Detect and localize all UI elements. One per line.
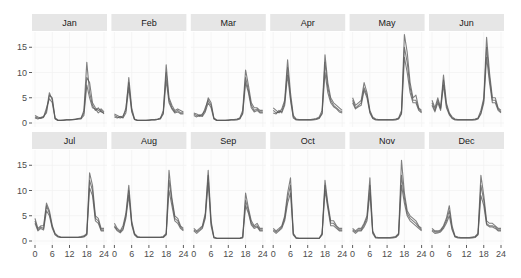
y-tick-label: 10 xyxy=(17,68,27,78)
facet-panel-sep: Sep06121824 xyxy=(191,132,268,259)
facet-strip-label: May xyxy=(379,18,397,28)
x-tick-label: 0 xyxy=(350,249,355,259)
y-tick-label: 5 xyxy=(22,93,27,103)
x-tick-label: 6 xyxy=(209,249,214,259)
y-tick-label: 15 xyxy=(17,160,27,170)
facet-strip-label: Jun xyxy=(459,18,474,28)
facet-strip-label: Sep xyxy=(220,136,236,146)
x-tick-label: 18 xyxy=(241,249,251,259)
x-tick-label: 12 xyxy=(223,249,233,259)
x-tick-label: 6 xyxy=(288,249,293,259)
x-tick-label: 18 xyxy=(399,249,409,259)
x-tick-label: 0 xyxy=(32,249,37,259)
x-tick-label: 12 xyxy=(461,249,471,259)
facet-panel-dec: Dec06121824 xyxy=(429,132,506,259)
x-tick-label: 0 xyxy=(112,249,117,259)
facet-strip-label: Jul xyxy=(64,136,76,146)
facet-strip-label: Feb xyxy=(141,18,157,28)
x-tick-label: 18 xyxy=(320,249,330,259)
x-tick-label: 24 xyxy=(99,249,109,259)
x-tick-label: 12 xyxy=(144,249,154,259)
x-tick-label: 6 xyxy=(367,249,372,259)
facet-strip-label: Dec xyxy=(458,136,475,146)
facet-panel-mar: Mar xyxy=(191,14,266,127)
y-tick-label: 0 xyxy=(22,236,27,246)
x-tick-label: 18 xyxy=(161,249,171,259)
facet-strip-label: Jan xyxy=(62,18,77,28)
y-tick-label: 0 xyxy=(22,118,27,128)
x-tick-label: 24 xyxy=(417,249,427,259)
facet-panel-may: May xyxy=(350,14,425,127)
x-tick-label: 24 xyxy=(337,249,347,259)
x-tick-label: 24 xyxy=(258,249,268,259)
x-tick-label: 6 xyxy=(447,249,452,259)
x-tick-label: 0 xyxy=(191,249,196,259)
x-tick-label: 6 xyxy=(129,249,134,259)
faceted-line-chart: Jan051015FebMarAprMayJunJul0510150612182… xyxy=(0,0,521,278)
facet-strip-label: Apr xyxy=(301,18,315,28)
facet-strip-label: Aug xyxy=(141,136,157,146)
x-tick-label: 24 xyxy=(178,249,188,259)
x-tick-label: 12 xyxy=(303,249,313,259)
y-tick-label: 15 xyxy=(17,42,27,52)
facet-panel-nov: Nov06121824 xyxy=(350,132,427,259)
x-tick-label: 0 xyxy=(429,249,434,259)
facet-strip-label: Mar xyxy=(221,18,237,28)
x-tick-label: 18 xyxy=(82,249,92,259)
y-tick-label: 5 xyxy=(22,211,27,221)
facet-panel-oct: Oct06121824 xyxy=(270,132,347,259)
facet-panel-feb: Feb xyxy=(111,14,186,127)
facet-panel-jan: Jan051015 xyxy=(17,14,107,128)
x-tick-label: 18 xyxy=(479,249,489,259)
x-tick-label: 6 xyxy=(50,249,55,259)
facet-panel-jul: Jul05101506121824 xyxy=(17,132,109,259)
x-tick-label: 24 xyxy=(496,249,506,259)
facet-strip-label: Nov xyxy=(379,136,396,146)
x-tick-label: 12 xyxy=(382,249,392,259)
x-tick-label: 0 xyxy=(271,249,276,259)
facet-panel-jun: Jun xyxy=(429,14,504,127)
facet-panel-aug: Aug06121824 xyxy=(111,132,188,259)
facet-strip-label: Oct xyxy=(301,136,316,146)
facet-panel-apr: Apr xyxy=(270,14,345,127)
y-tick-label: 10 xyxy=(17,186,27,196)
x-tick-label: 12 xyxy=(64,249,74,259)
